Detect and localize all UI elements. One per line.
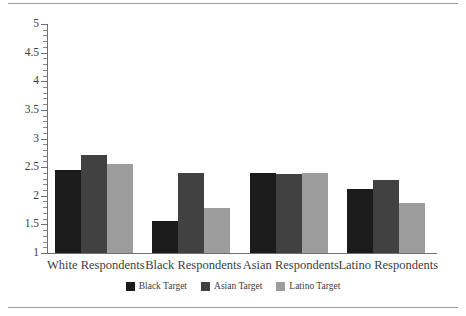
- y-tick-major: [41, 224, 47, 225]
- y-tick-minor: [43, 87, 47, 88]
- y-tick-minor: [43, 98, 47, 99]
- y-tick-minor: [43, 121, 47, 122]
- y-tick-minor: [43, 213, 47, 214]
- y-tick-major: [41, 196, 47, 197]
- legend-swatch-icon: [201, 282, 210, 291]
- legend-item: Latino Target: [276, 281, 340, 291]
- y-tick-minor: [43, 133, 47, 134]
- y-tick-minor: [43, 179, 47, 180]
- bar: [302, 173, 328, 253]
- bar: [152, 221, 178, 253]
- y-tick-label: 2: [33, 190, 39, 202]
- y-tick-minor: [43, 207, 47, 208]
- y-tick-minor: [43, 144, 47, 145]
- y-tick-minor: [43, 116, 47, 117]
- bar-group: [250, 24, 328, 253]
- legend-label: Asian Target: [214, 281, 262, 291]
- y-tick-minor: [43, 190, 47, 191]
- x-axis-tick-labels: White RespondentsBlack RespondentsAsian …: [47, 258, 447, 276]
- bar-group: [152, 24, 230, 253]
- y-tick-minor: [43, 41, 47, 42]
- legend-swatch-icon: [276, 282, 285, 291]
- y-tick-minor: [43, 184, 47, 185]
- y-tick-minor: [43, 201, 47, 202]
- x-axis-line: [47, 253, 437, 254]
- y-axis-line: [47, 24, 48, 254]
- legend-item: Asian Target: [201, 281, 262, 291]
- bar: [347, 189, 373, 253]
- legend-label: Black Target: [139, 281, 187, 291]
- y-tick-minor: [43, 173, 47, 174]
- y-tick-major: [41, 81, 47, 82]
- y-tick-major: [41, 167, 47, 168]
- y-tick-minor: [43, 58, 47, 59]
- y-tick-minor: [43, 236, 47, 237]
- y-tick-minor: [43, 230, 47, 231]
- legend-swatch-icon: [126, 282, 135, 291]
- y-tick-minor: [43, 93, 47, 94]
- y-tick-label: 1: [33, 247, 39, 259]
- bar: [55, 170, 81, 253]
- y-tick-minor: [43, 127, 47, 128]
- y-tick-minor: [43, 64, 47, 65]
- y-tick-minor: [43, 70, 47, 71]
- bar: [373, 180, 399, 253]
- y-tick-label: 3: [33, 133, 39, 145]
- y-axis-tick-labels: 11.522.533.544.55: [3, 24, 39, 254]
- chart-legend: Black TargetAsian TargetLatino Target: [0, 281, 466, 291]
- y-tick-label: 3.5: [25, 104, 39, 116]
- figure: 11.522.533.544.55 White RespondentsBlack…: [0, 0, 466, 316]
- figure-top-rule: [8, 3, 458, 4]
- y-tick-label: 4.5: [25, 47, 39, 59]
- y-tick-major: [41, 139, 47, 140]
- legend-item: Black Target: [126, 281, 187, 291]
- y-tick-label: 2.5: [25, 161, 39, 173]
- y-tick-minor: [43, 35, 47, 36]
- bar-group: [347, 24, 425, 253]
- bar: [81, 155, 107, 253]
- y-tick-minor: [43, 247, 47, 248]
- y-tick-label: 1.5: [25, 218, 39, 230]
- y-tick-major: [41, 24, 47, 25]
- figure-bottom-rule: [8, 307, 458, 308]
- y-tick-minor: [43, 242, 47, 243]
- y-tick-minor: [43, 47, 47, 48]
- bar: [276, 174, 302, 253]
- y-tick-major: [41, 53, 47, 54]
- bar: [204, 208, 230, 253]
- y-tick-label: 5: [33, 18, 39, 30]
- y-tick-minor: [43, 219, 47, 220]
- bar: [107, 164, 133, 253]
- y-tick-major: [41, 110, 47, 111]
- y-tick-major: [41, 253, 47, 254]
- y-tick-minor: [43, 161, 47, 162]
- y-tick-minor: [43, 30, 47, 31]
- y-tick-minor: [43, 104, 47, 105]
- bar: [250, 173, 276, 253]
- y-tick-minor: [43, 156, 47, 157]
- bar-group: [55, 24, 133, 253]
- y-tick-minor: [43, 150, 47, 151]
- bar: [178, 173, 204, 253]
- y-tick-label: 4: [33, 75, 39, 87]
- x-tick-label: Latino Respondents: [328, 258, 450, 273]
- y-tick-minor: [43, 76, 47, 77]
- plot-area: 11.522.533.544.55: [47, 24, 437, 254]
- bar: [399, 203, 425, 253]
- legend-label: Latino Target: [289, 281, 340, 291]
